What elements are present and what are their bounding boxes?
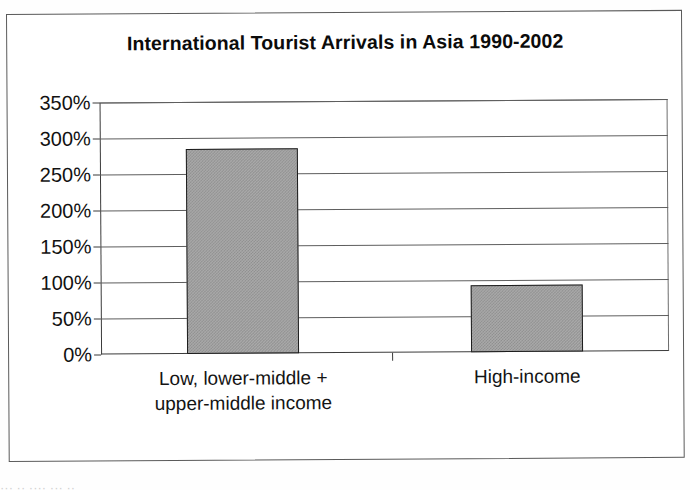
bar[interactable]: [471, 285, 583, 353]
y-axis-tick: [93, 246, 100, 247]
y-axis-label: 150%: [40, 236, 91, 256]
y-axis-tick: [93, 102, 100, 103]
y-axis-tick: [94, 282, 101, 283]
category-label-line: Low, lower-middle +: [93, 365, 393, 392]
y-axis-label: 200%: [40, 200, 91, 220]
chart-frame: International Tourist Arrivals in Asia 1…: [6, 10, 685, 462]
y-axis-tick: [94, 354, 101, 355]
x-axis-tick: [392, 353, 393, 361]
chart-title: International Tourist Arrivals in Asia 1…: [7, 29, 683, 56]
bar[interactable]: [186, 148, 299, 354]
y-axis-label: 250%: [40, 164, 91, 184]
y-axis-label: 0%: [63, 344, 92, 364]
y-axis-label: 50%: [52, 308, 92, 328]
category-label-line: High-income: [377, 363, 677, 390]
category-label: High-income: [377, 363, 677, 390]
y-axis-tick: [93, 138, 100, 139]
chart-page: International Tourist Arrivals in Asia 1…: [0, 0, 690, 490]
y-axis-label: 100%: [40, 272, 91, 292]
x-axis-category-labels: Low, lower-middle +upper-middle incomeHi…: [7, 11, 681, 15]
y-axis-label: 350%: [39, 92, 90, 112]
bottom-scan-fragment: ··· ·· ···· ··· ··: [0, 480, 690, 490]
category-label: Low, lower-middle +upper-middle income: [93, 365, 393, 417]
y-axis-label: 300%: [40, 128, 91, 148]
y-axis-tick: [93, 174, 100, 175]
y-axis-tick: [93, 210, 100, 211]
plot-wrapper: 0%50%100%150%200%250%300%350%: [100, 99, 670, 354]
category-label-line: upper-middle income: [93, 390, 393, 417]
y-axis-tick: [94, 318, 101, 319]
